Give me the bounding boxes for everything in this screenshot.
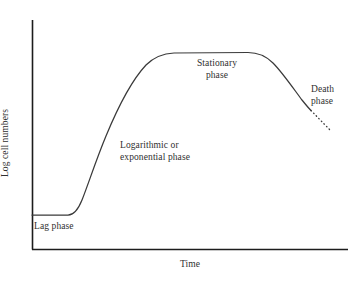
death-phase-label: Death phase [311,84,355,107]
death-phase-dotted-line [311,111,331,132]
log-phase-label: Logarithmic or exponential phase [120,140,212,163]
log-phase-label-line1: Logarithmic or [120,140,212,152]
y-axis-title: Log cell numbers [0,88,12,198]
log-phase-label-line2: exponential phase [120,152,212,164]
lag-phase-label: Lag phase [34,221,74,233]
x-axis-title: Time [158,259,222,271]
death-phase-label-line2: phase [311,96,355,108]
stationary-phase-label-line2: phase [186,70,248,82]
stationary-phase-label: Stationary phase [186,58,248,81]
death-phase-label-line1: Death [311,84,355,96]
growth-curve-line [32,53,311,216]
stationary-phase-label-line1: Stationary [186,58,248,70]
growth-curve-figure: Log cell numbers Time Lag phase Logarith… [0,0,361,284]
